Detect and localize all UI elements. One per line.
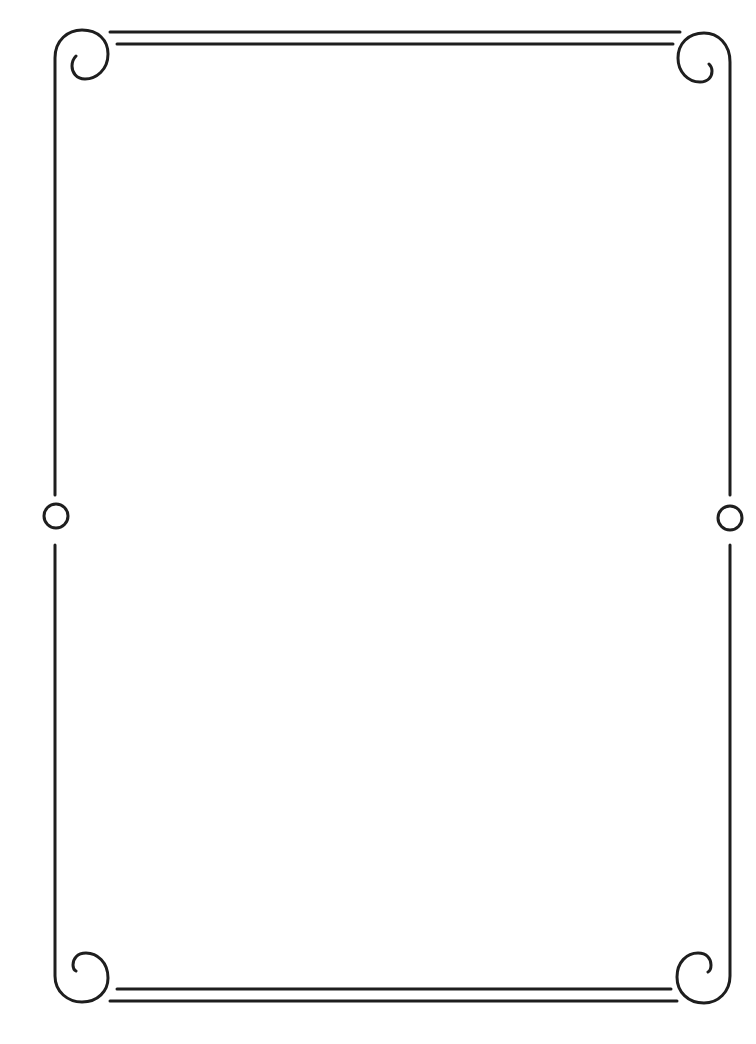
top-right-scroll-icon: [678, 33, 730, 495]
top-left-scroll-icon: [55, 30, 108, 495]
left-circle-ornament-icon: [44, 504, 68, 528]
right-circle-ornament-icon: [718, 506, 742, 530]
bottom-left-scroll-icon: [55, 545, 108, 1002]
page-border: [0, 0, 756, 1044]
bottom-right-scroll-icon: [677, 545, 730, 1003]
